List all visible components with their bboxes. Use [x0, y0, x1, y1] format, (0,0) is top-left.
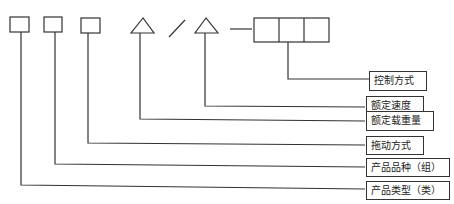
- triangle-rated-load: [131, 18, 154, 33]
- leader-rated-load: [140, 33, 365, 121]
- label-rated-load: 额定载重量: [366, 111, 434, 131]
- triangle-rated-speed: [195, 18, 218, 33]
- leader-rated-speed: [205, 33, 365, 107]
- label-product-type: 产品类型（类）: [366, 181, 450, 200]
- leader-product-variety: [55, 32, 365, 167]
- square-product-type: [10, 17, 29, 32]
- leader-drive-mode: [88, 33, 365, 145]
- leader-control-mode: [288, 42, 369, 79]
- square-product-variety: [44, 17, 62, 32]
- triple-box-control-mode: [254, 18, 329, 42]
- label-product-variety: 产品品种（组）: [366, 158, 450, 177]
- label-drive-mode: 拖动方式: [366, 136, 424, 155]
- square-drive-mode: [81, 18, 100, 33]
- label-control-mode: 控制方式: [369, 71, 427, 91]
- slash-separator: [169, 20, 185, 37]
